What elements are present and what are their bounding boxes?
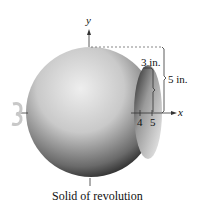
x-axis-arrow-icon <box>171 111 177 115</box>
dimension-5in: 5 in. <box>168 74 188 85</box>
y-axis-arrow-icon <box>87 29 91 35</box>
tick-label-4: 4 <box>137 117 143 128</box>
rotation-arrow-icon <box>12 104 21 125</box>
solid-of-revolution-diagram <box>0 0 201 207</box>
caption: Solid of revolution <box>52 190 143 202</box>
brace-5in <box>162 47 166 113</box>
x-axis-label: x <box>178 107 183 118</box>
hollow-cavity <box>134 65 162 159</box>
tick-label-5: 5 <box>150 117 156 128</box>
dimension-3in: 3 in. <box>141 57 161 68</box>
y-axis-label: y <box>86 15 91 26</box>
